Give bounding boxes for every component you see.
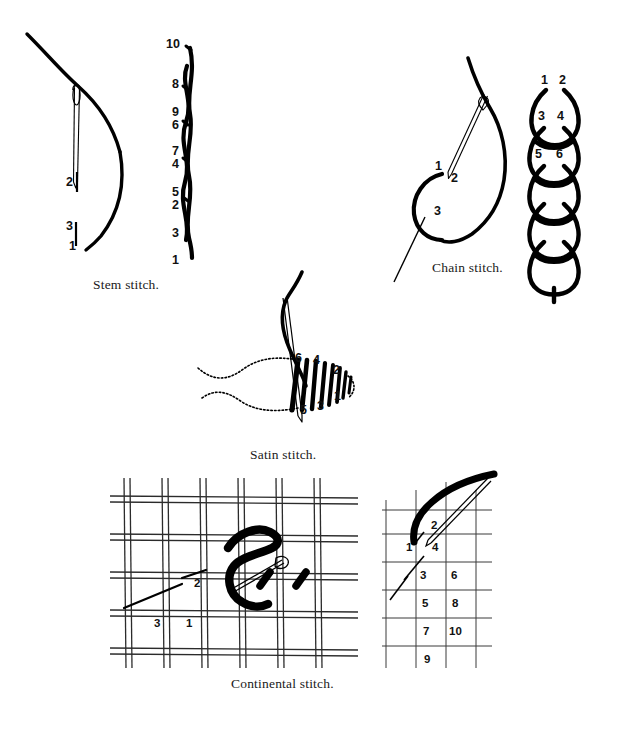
satin-stitch-figure: 6 4 2 5 3 1: [180, 270, 380, 445]
continental-label-1: 1: [186, 618, 192, 630]
chain-sample-loops: [529, 90, 578, 302]
continental-canvas-illustration: [110, 478, 368, 668]
stem-stitch-caption: Stem stitch.: [93, 277, 159, 293]
grid-label-1: 1: [406, 542, 412, 554]
grid-label-6: 6: [451, 570, 457, 582]
chain-sample-label-5: 5: [535, 148, 542, 161]
satin-label-6: 6: [295, 352, 302, 365]
stem-stitch-figure: 2 3 1 10 8 9 6 7 4 5 2 3 1: [0, 0, 230, 300]
satin-label-5: 5: [300, 404, 307, 417]
grid-label-3: 3: [420, 570, 426, 582]
grid-needle-tip: [426, 540, 431, 546]
chain-label-2: 2: [451, 172, 458, 185]
continental-grid-figure: 2 1 4 3 6 5 8 7 10 9: [382, 472, 532, 672]
stem-sample-label-2: 2: [172, 199, 179, 212]
grid-label-7: 7: [423, 626, 429, 638]
stem-label-3: 3: [66, 220, 73, 233]
grid-label-10: 10: [449, 626, 462, 638]
stem-sample-label-8: 8: [172, 78, 179, 91]
continental-label-2: 2: [194, 578, 200, 590]
grid-label-9: 9: [424, 654, 430, 666]
satin-label-1: 1: [334, 390, 341, 403]
continental-stitch-caption: Continental stitch.: [231, 676, 334, 692]
continental-pointer-3: [124, 584, 182, 608]
stem-sample-label-9: 9: [172, 106, 179, 119]
grid-tick-3: [390, 576, 408, 600]
chain-label-1: 1: [435, 160, 442, 173]
satin-label-3: 3: [317, 400, 324, 413]
stem-sample-label-1: 1: [172, 254, 179, 267]
stem-label-2: 2: [66, 176, 73, 189]
chain-thread-tail: [394, 217, 425, 282]
chain-sample-label-1: 1: [541, 74, 548, 87]
stem-thread-lower: [86, 152, 122, 250]
chain-label-3: 3: [434, 205, 441, 218]
chain-sample-label-6: 6: [556, 148, 563, 161]
chain-sample-label-4: 4: [557, 110, 564, 123]
satin-outline-lower: [202, 392, 298, 410]
stem-sample-label-5: 5: [172, 186, 179, 199]
stem-sample-label-7: 7: [172, 145, 179, 158]
grid-label-8: 8: [452, 598, 458, 610]
satin-outline-upper: [198, 358, 298, 378]
stem-sample-label-4: 4: [172, 158, 179, 171]
grid-lines: [382, 482, 492, 668]
stem-label-1: 1: [69, 240, 76, 253]
stitch-diagram-sheet: 2 3 1 10 8 9 6 7 4 5 2 3 1 Stem stitch.: [0, 0, 618, 731]
chain-needle-left: [448, 94, 484, 172]
continental-label-3: 3: [154, 618, 160, 630]
satin-thread: [283, 272, 306, 386]
chain-stitch-caption: Chain stitch.: [432, 260, 503, 276]
stem-stitch-illustration: [0, 0, 230, 300]
chain-needle-right: [452, 96, 488, 174]
continental-stitch-a: [260, 572, 270, 586]
grid-label-4: 4: [432, 542, 438, 554]
satin-stitch-caption: Satin stitch.: [250, 447, 316, 463]
chain-sample-label-2: 2: [559, 74, 566, 87]
stem-sample-label-3: 3: [172, 227, 179, 240]
chain-sample-label-3: 3: [538, 110, 545, 123]
grid-label-2: 2: [431, 520, 437, 532]
satin-stitch-illustration: [180, 270, 380, 445]
satin-label-2: 2: [333, 364, 340, 377]
continental-canvas-figure: 3 1 2: [110, 478, 368, 668]
satin-label-4: 4: [313, 354, 320, 367]
stem-sample-label-6: 6: [172, 119, 179, 132]
grid-label-5: 5: [422, 598, 428, 610]
stem-sample-label-10: 10: [166, 38, 180, 51]
chain-thread-upper: [440, 58, 505, 242]
